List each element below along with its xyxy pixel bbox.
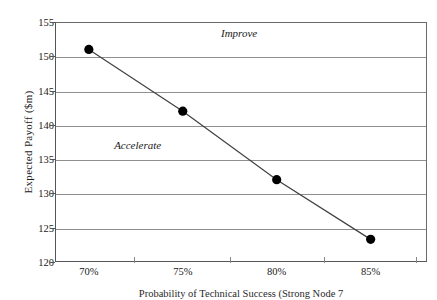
x-tick-label: 75%	[153, 266, 213, 277]
x-tick-label: 80%	[247, 266, 307, 277]
chart-annotation-improve: Improve	[221, 27, 257, 39]
x-axis-title: Probability of Technical Success (Strong…	[55, 288, 427, 299]
x-tick-label: 85%	[341, 266, 401, 277]
x-tick-label: 70%	[59, 266, 119, 277]
data-series-layer	[55, 22, 427, 262]
data-point-marker	[366, 235, 375, 244]
chart-figure: Expected Payoff ($m) 1201251301351401451…	[0, 0, 437, 300]
data-point-marker	[178, 107, 187, 116]
chart-annotation-accelerate: Accelerate	[114, 139, 161, 151]
data-point-marker	[272, 175, 281, 184]
data-point-marker	[84, 45, 93, 54]
y-tick-mark	[50, 262, 55, 263]
